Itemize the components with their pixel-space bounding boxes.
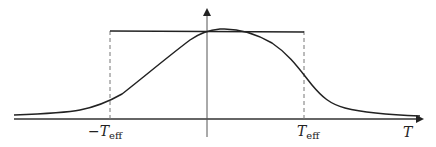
- pos-teff-label: Teff: [297, 123, 320, 141]
- pulse-diagram: −Teff Teff T: [0, 0, 436, 147]
- x-axis-label: T: [403, 124, 414, 140]
- neg-teff-label: −Teff: [88, 123, 123, 141]
- pulse-curve: [14, 29, 420, 116]
